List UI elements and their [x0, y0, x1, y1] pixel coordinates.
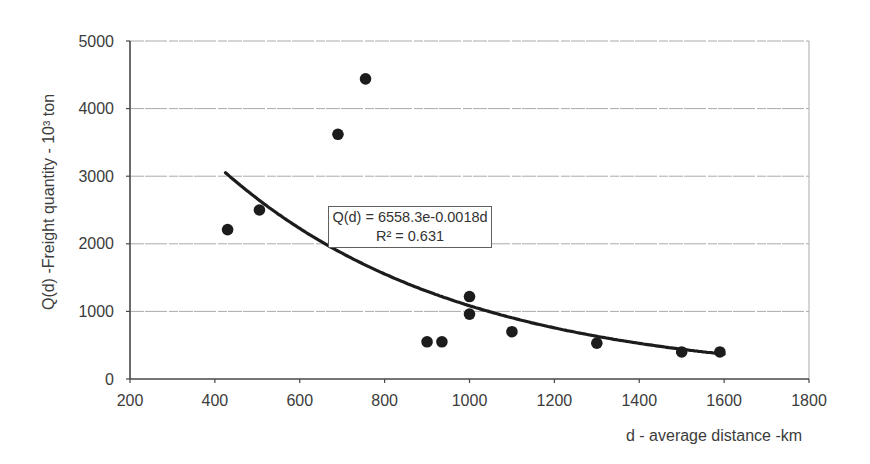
- y-tick-label: 5000: [78, 33, 114, 50]
- y-tick-label: 3000: [78, 168, 114, 185]
- data-point: [464, 291, 476, 303]
- x-tick-label: 400: [202, 392, 229, 409]
- data-point: [254, 204, 266, 216]
- data-point: [676, 346, 688, 358]
- x-tick-label: 200: [117, 392, 144, 409]
- data-point: [591, 337, 603, 349]
- y-axis-title: Q(d) -Freight quantity - 10³ ton: [40, 94, 58, 310]
- data-point: [506, 326, 518, 338]
- data-point: [421, 336, 433, 348]
- x-axis-title: d - average distance -km: [626, 427, 802, 445]
- trendline-r-squared: R² = 0.631: [329, 227, 491, 246]
- x-tick-label: 800: [371, 392, 398, 409]
- data-point: [222, 224, 234, 236]
- x-tick-label: 1200: [537, 392, 573, 409]
- x-tick-label: 1400: [621, 392, 657, 409]
- y-tick-label: 1000: [78, 303, 114, 320]
- data-point: [464, 308, 476, 320]
- trendline-equation: Q(d) = 6558.3e-0.0018d: [329, 208, 491, 227]
- trendline-equation-box: Q(d) = 6558.3e-0.0018d R² = 0.631: [328, 206, 492, 248]
- data-point: [436, 336, 448, 348]
- x-tick-label: 1800: [791, 392, 827, 409]
- data-point: [360, 73, 372, 85]
- x-tick-label: 1600: [706, 392, 742, 409]
- data-point: [332, 128, 344, 140]
- x-tick-label: 600: [286, 392, 313, 409]
- y-tick-label: 2000: [78, 235, 114, 252]
- y-tick-label: 0: [105, 371, 114, 388]
- x-tick-label: 1000: [452, 392, 488, 409]
- data-point: [714, 346, 726, 358]
- trendline-curve: [226, 173, 725, 354]
- scanned-chart-page: 2004006008001000120014001600180001000200…: [0, 0, 870, 464]
- freight-distance-chart: 2004006008001000120014001600180001000200…: [0, 0, 870, 464]
- y-tick-label: 4000: [78, 100, 114, 117]
